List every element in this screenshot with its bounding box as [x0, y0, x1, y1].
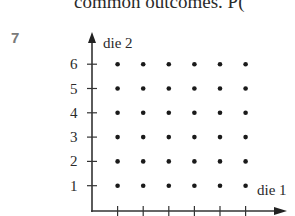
- dice-outcome-plot: die 2 die 1 123456: [0, 0, 295, 216]
- outcome-point: [115, 135, 120, 140]
- y-tick-label: 6: [70, 56, 78, 72]
- x-axis-arrow-icon: [274, 207, 287, 215]
- outcome-point: [115, 86, 120, 91]
- outcome-point: [218, 135, 223, 140]
- outcome-point: [192, 183, 197, 188]
- outcome-point: [141, 135, 146, 140]
- outcome-point: [115, 159, 120, 164]
- outcome-point: [192, 62, 197, 67]
- outcome-point: [243, 135, 248, 140]
- outcome-point: [243, 62, 248, 67]
- outcome-point: [218, 86, 223, 91]
- y-axis-arrow-icon: [88, 32, 96, 43]
- outcome-point: [115, 183, 120, 188]
- outcome-point: [218, 183, 223, 188]
- outcome-point: [218, 62, 223, 67]
- outcome-point: [141, 86, 146, 91]
- outcome-point: [167, 135, 172, 140]
- outcome-point: [141, 62, 146, 67]
- y-tick-label: 4: [70, 105, 78, 121]
- outcome-point: [141, 159, 146, 164]
- outcome-point: [243, 159, 248, 164]
- outcome-point: [243, 86, 248, 91]
- y-tick-label: 2: [70, 153, 78, 169]
- outcome-points: [115, 62, 248, 188]
- outcome-point: [243, 183, 248, 188]
- outcome-point: [218, 159, 223, 164]
- outcome-point: [167, 86, 172, 91]
- outcome-point: [167, 159, 172, 164]
- outcome-point: [192, 135, 197, 140]
- x-axis: [91, 207, 287, 215]
- y-tick-label: 5: [70, 81, 78, 97]
- outcome-point: [115, 111, 120, 116]
- outcome-point: [192, 86, 197, 91]
- outcome-point: [167, 183, 172, 188]
- y-axis: [88, 32, 96, 212]
- x-axis-label: die 1: [257, 182, 287, 198]
- outcome-point: [192, 111, 197, 116]
- outcome-point: [167, 62, 172, 67]
- y-tick-label: 1: [70, 178, 78, 194]
- outcome-point: [115, 62, 120, 67]
- y-axis-label: die 2: [103, 35, 133, 51]
- outcome-point: [218, 111, 223, 116]
- outcome-point: [192, 159, 197, 164]
- outcome-point: [243, 111, 248, 116]
- outcome-point: [141, 183, 146, 188]
- outcome-point: [167, 111, 172, 116]
- outcome-point: [141, 111, 146, 116]
- y-tick-label: 3: [70, 129, 78, 145]
- y-tick-group: 123456: [70, 56, 97, 194]
